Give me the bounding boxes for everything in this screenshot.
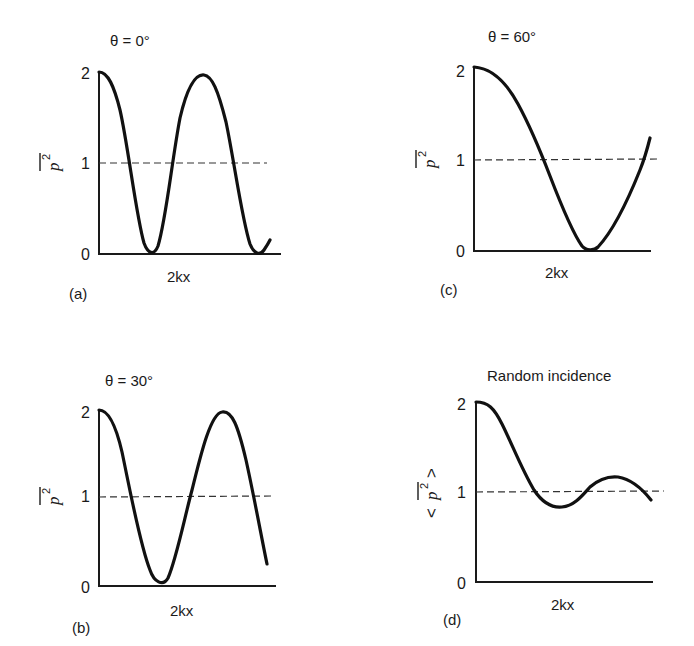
panel-d-ytick-0: 0 [457,575,466,592]
panel-c-title: θ = 60° [488,28,536,45]
panel-b-label: (b) [72,619,90,636]
svg-text:2: 2 [416,151,428,157]
panel-c-ytick-1: 1 [456,152,465,169]
panel-c-reference-line [474,159,658,160]
panel-a-ytick-1: 1 [81,155,90,172]
panel-c-label: (c) [440,281,458,298]
panel-b-ytick-1: 1 [81,488,90,505]
panel-a-ylabel: p 2 [40,153,63,172]
panel-d-reference-line [476,491,664,492]
panel-d-xlabel: 2kx [551,596,575,613]
panel-d-title: Random incidence [487,367,611,384]
svg-text:p: p [44,497,63,507]
panel-a-ytick-0: 0 [81,246,90,263]
panel-a-label: (a) [69,285,87,302]
panel-d-ylabel: < p 2 > [418,468,441,518]
panel-d-ytick-2: 2 [457,396,466,413]
panel-b-ytick-2: 2 [81,404,90,421]
panel-c: θ = 60° 2 1 0 p 2 2kx (c) [416,28,658,298]
svg-text:p: p [422,492,441,502]
panel-b-xlabel: 2kx [170,602,194,619]
panel-c-xlabel: 2kx [545,264,569,281]
panel-b: θ = 30° 2 1 0 p 2 2kx (b) [40,372,276,636]
panel-c-ytick-0: 0 [456,243,465,260]
panel-b-axes [99,410,276,586]
panel-a-ytick-2: 2 [81,65,90,82]
svg-text:>: > [422,468,441,478]
svg-text:p: p [44,163,63,173]
figure: θ = 0° 2 1 0 p 2 2kx (a) θ = 60° 2 1 0 p… [0,0,694,646]
panel-b-ytick-0: 0 [81,579,90,596]
svg-text:p: p [420,160,439,170]
panel-a-xlabel: 2kx [167,268,191,285]
svg-text:2: 2 [40,488,52,494]
panel-d-label: (d) [443,611,461,628]
panel-a: θ = 0° 2 1 0 p 2 2kx (a) [40,32,281,302]
panel-c-curve [474,67,650,250]
panel-c-ylabel: p 2 [416,150,439,169]
panel-d-ytick-1: 1 [457,484,466,501]
panel-c-ytick-2: 2 [456,63,465,80]
svg-text:2: 2 [418,483,430,489]
panel-b-reference-line [99,496,272,497]
panel-b-title: θ = 30° [105,372,153,389]
panel-b-ylabel: p 2 [40,487,63,506]
panel-a-title: θ = 0° [110,32,150,49]
svg-text:2: 2 [40,154,52,160]
svg-text:<: < [422,508,441,518]
panel-d: Random incidence 2 1 0 < p 2 > 2kx (d) [418,367,664,628]
